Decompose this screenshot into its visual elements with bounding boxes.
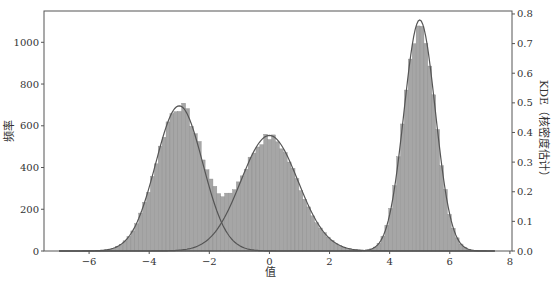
histogram-bar <box>275 142 279 251</box>
histogram-bar <box>217 194 221 251</box>
histogram-bar <box>170 114 174 251</box>
histogram-bar <box>186 109 190 251</box>
histogram-bar <box>424 43 428 251</box>
y2-tick-label: 0.0 <box>517 246 533 257</box>
histogram-bar <box>307 207 311 251</box>
x-tick-label: −4 <box>142 256 157 267</box>
histogram-bar <box>287 162 291 251</box>
histogram-bar <box>182 103 186 251</box>
y-tick-label: 0 <box>33 246 39 257</box>
histogram-bar <box>189 126 193 251</box>
histogram-bar <box>322 233 326 251</box>
histogram-bar <box>135 224 139 251</box>
histogram-bar <box>252 153 256 251</box>
histogram-bar <box>299 191 303 251</box>
histogram-bar <box>283 153 287 251</box>
histogram-bar <box>428 66 432 251</box>
y2-tick-label: 0.8 <box>517 8 533 19</box>
histogram-bar <box>193 134 197 251</box>
histogram-bar <box>432 95 436 251</box>
histogram-bar <box>416 26 420 251</box>
histogram-bar <box>295 179 299 251</box>
histogram-bar <box>412 44 416 251</box>
histogram-bar <box>178 111 182 251</box>
histogram-bar <box>256 147 260 251</box>
y-axis-right-title: KDE（核密度估计） <box>537 80 551 182</box>
y2-tick-label: 0.5 <box>517 97 533 108</box>
histogram-bar <box>244 169 248 251</box>
histogram-bar <box>408 59 412 251</box>
y-axis-right-ticks: 0.00.10.20.30.40.50.60.70.8 <box>512 8 533 256</box>
histogram-bar <box>400 124 404 251</box>
histogram-bar <box>150 176 154 251</box>
y2-tick-label: 0.1 <box>517 216 533 227</box>
x-tick-label: −2 <box>202 256 217 267</box>
histogram-bar <box>440 166 444 251</box>
histogram-bar <box>166 122 170 251</box>
y-tick-label: 400 <box>20 162 39 173</box>
histogram-bar <box>158 146 162 251</box>
x-axis-ticks: −6−4−202468 <box>82 251 513 267</box>
histogram-bar <box>248 157 252 251</box>
histogram-bars <box>96 26 479 251</box>
y-tick-label: 600 <box>20 120 39 131</box>
histogram-bar <box>225 193 229 251</box>
y2-tick-label: 0.7 <box>517 38 533 49</box>
y-axis-left-title: 频率 <box>2 120 16 142</box>
histogram-bar <box>326 237 330 251</box>
histogram-bar <box>272 135 276 251</box>
histogram-bar <box>139 213 143 251</box>
x-axis-title: 值 <box>265 266 276 279</box>
x-tick-label: −6 <box>82 256 97 267</box>
histogram-bar <box>420 26 424 251</box>
histogram-bar <box>240 176 244 251</box>
histogram-bar <box>213 186 217 251</box>
histogram-bar <box>303 199 307 251</box>
histogram-bar <box>318 228 322 251</box>
y2-tick-label: 0.3 <box>517 157 533 168</box>
x-tick-label: 2 <box>326 256 332 267</box>
x-tick-label: 6 <box>447 256 453 267</box>
histogram-bar <box>291 168 295 251</box>
y-tick-label: 200 <box>20 204 39 215</box>
histogram-kde-chart: −6−4−202468 02004006008001000 0.00.10.20… <box>0 0 553 288</box>
histogram-bar <box>174 112 178 251</box>
histogram-bar <box>264 134 268 251</box>
x-tick-label: 8 <box>507 256 513 267</box>
histogram-bar <box>268 140 272 251</box>
histogram-bar <box>311 216 315 251</box>
histogram-bar <box>154 164 158 251</box>
y-tick-label: 1000 <box>14 37 39 48</box>
chart-canvas: −6−4−202468 02004006008001000 0.00.10.20… <box>0 0 553 288</box>
histogram-bar <box>279 149 283 251</box>
histogram-bar <box>197 141 201 251</box>
histogram-bar <box>162 137 166 251</box>
histogram-bar <box>404 90 408 251</box>
histogram-bar <box>143 202 147 251</box>
histogram-bar <box>260 145 264 251</box>
y2-tick-label: 0.2 <box>517 186 533 197</box>
histogram-bar <box>236 182 240 251</box>
histogram-bar <box>147 192 151 251</box>
y-tick-label: 800 <box>20 79 39 90</box>
y2-tick-label: 0.6 <box>517 68 533 79</box>
x-tick-label: 4 <box>386 256 392 267</box>
y-axis-left-ticks: 02004006008001000 <box>14 37 44 257</box>
histogram-bar <box>315 223 319 251</box>
y2-tick-label: 0.4 <box>517 127 533 138</box>
histogram-bar <box>201 160 205 251</box>
